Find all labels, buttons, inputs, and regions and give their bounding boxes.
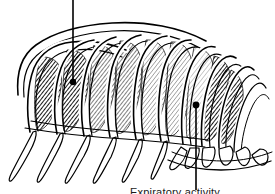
- caption-expiratory-activity: Expiratory activity: [130, 187, 275, 194]
- costal-margin-block-4: [219, 146, 233, 165]
- leader-top-dot: [70, 79, 76, 85]
- ribcage-illustration: [0, 0, 275, 194]
- figure-container: Expiratory activity: [0, 0, 275, 194]
